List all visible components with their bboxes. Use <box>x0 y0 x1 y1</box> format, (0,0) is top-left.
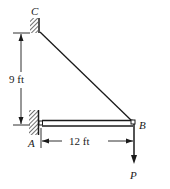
label-a: A <box>27 137 35 149</box>
dimension-horizontal-label: 12 ft <box>69 135 89 147</box>
label-c: C <box>31 5 39 17</box>
wall-support-c <box>30 18 39 33</box>
dimension-vertical-label: 9 ft <box>9 73 24 85</box>
load-arrow-p <box>131 124 137 164</box>
beam-ab <box>42 121 133 127</box>
cable-cb <box>40 32 133 122</box>
label-b: B <box>139 119 146 131</box>
beam-cable-diagram: C 9 ft A B 12 ft P <box>0 0 170 189</box>
pin-a <box>39 121 43 125</box>
label-p: P <box>129 169 137 181</box>
pin-b <box>131 120 135 124</box>
wall-support-a <box>29 110 39 135</box>
